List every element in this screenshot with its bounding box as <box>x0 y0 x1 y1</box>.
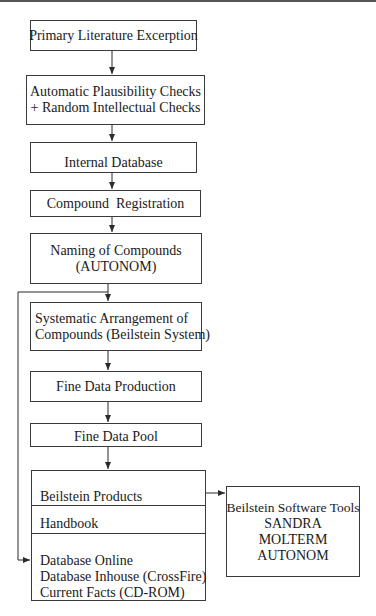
database-inhouse: Database Inhouse (CrossFire) <box>40 569 205 585</box>
box-beilstein-products: Beilstein Products Handbook Database Onl… <box>31 470 206 601</box>
box-label: Fine Data Pool <box>74 429 158 445</box>
handbook-label: Handbook <box>40 516 205 532</box>
box-label: Compound Registration <box>47 196 185 212</box>
database-online: Database Online <box>40 553 205 569</box>
box-plausibility-checks: Automatic Plausibility Checks + Random I… <box>26 75 205 125</box>
tool-autonom: AUTONOM <box>257 548 328 564</box>
box-fine-data-production: Fine Data Production <box>30 371 202 402</box>
divider-1 <box>32 505 205 506</box>
tool-sandra: SANDRA <box>264 516 322 532</box>
box-label: Fine Data Production <box>56 379 176 395</box>
box-naming-of-compounds: Naming of Compounds (AUTONOM) <box>30 233 202 284</box>
tools-title: Beilstein Software Tools <box>226 500 359 516</box>
box-label: Internal Database <box>64 155 162 171</box>
box-label-line-2: (AUTONOM) <box>76 259 157 275</box>
box-label: Primary Literature Excerption <box>29 28 198 44</box>
box-label-line-2: Compounds (Beilstein System) <box>35 327 210 343</box>
box-label-line-2: + Random Intellectual Checks <box>30 100 200 116</box>
tool-molterm: MOLTERM <box>259 532 328 548</box>
page-top-rule <box>0 0 376 2</box>
box-label-line-1: Automatic Plausibility Checks <box>30 84 201 100</box>
box-fine-data-pool: Fine Data Pool <box>30 423 202 447</box>
section-products-title: Beilstein Products <box>32 489 205 505</box>
box-compound-registration: Compound Registration <box>30 190 201 217</box>
box-systematic-arrangement: Systematic Arrangement of Compounds (Bei… <box>30 302 202 351</box>
current-facts: Current Facts (CD-ROM) <box>40 585 205 601</box>
box-label-line-1: Systematic Arrangement of <box>35 311 188 327</box>
box-internal-database: Internal Database <box>30 142 197 173</box>
section-handbook: Handbook <box>32 516 205 532</box>
box-software-tools: Beilstein Software Tools SANDRA MOLTERM … <box>226 486 360 577</box>
products-title: Beilstein Products <box>40 489 205 505</box>
divider-2 <box>32 533 205 534</box>
box-primary-literature: Primary Literature Excerption <box>30 20 197 51</box>
section-databases: Database Online Database Inhouse (CrossF… <box>32 553 205 601</box>
box-label-line-1: Naming of Compounds <box>50 243 181 259</box>
